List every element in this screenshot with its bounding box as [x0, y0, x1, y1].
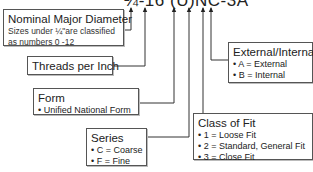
nominal-title: Nominal Major Diameter	[8, 12, 119, 26]
series-title: Series	[91, 131, 142, 145]
form-item: • Unified National Form	[38, 105, 134, 116]
class-of-fit-title: Class of Fit	[198, 116, 308, 130]
external-internal-item: • B = Internal	[233, 70, 308, 81]
class-of-fit-box: Class of Fit • 1 = Loose Fit • 2 = Stand…	[193, 113, 313, 160]
series-item: • C = Coarse	[91, 145, 142, 156]
series-box: Series • C = Coarse • F = Fine	[86, 128, 147, 166]
nominal-note: Sizes under ¼"are classified as numbers …	[8, 26, 119, 48]
nominal-diameter-box: Nominal Major Diameter Sizes under ¼"are…	[3, 9, 124, 46]
class-of-fit-item: • 3 = Close Fit	[198, 152, 308, 163]
class-of-fit-item: • 2 = Standard, General Fit	[198, 141, 308, 152]
external-internal-item: • A = External	[233, 59, 308, 70]
class-of-fit-item: • 1 = Loose Fit	[198, 130, 308, 141]
form-title: Form	[38, 91, 134, 105]
form-box: Form • Unified National Form	[33, 88, 139, 115]
series-item: • F = Fine	[91, 156, 142, 167]
external-internal-title: External/Internal	[233, 45, 308, 59]
thread-designation-diagram: ¼-16 (U)NC-3A Nominal Major Diameter Siz…	[0, 0, 313, 172]
threads-per-inch-box: Threads per Inch	[27, 56, 113, 75]
external-internal-box: External/Internal • A = External • B = I…	[228, 42, 313, 83]
threads-title: Threads per Inch	[32, 59, 108, 73]
